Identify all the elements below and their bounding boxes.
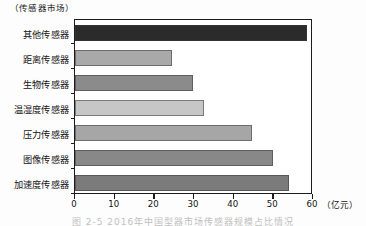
plot-area	[74, 19, 312, 194]
x-axis-tick-label-2: 20	[148, 199, 159, 209]
bar-4	[75, 100, 204, 116]
bar-2	[75, 50, 172, 66]
x-axis-tick-label-1: 10	[108, 199, 119, 209]
x-axis-tick-label-0: 0	[71, 199, 76, 209]
y-axis-label-1: 其他传感器	[0, 27, 69, 41]
y-axis-label-7: 加速度传感器	[0, 177, 69, 191]
y-axis-tick-6	[71, 168, 75, 169]
bar-row	[75, 125, 313, 141]
bar-6	[75, 150, 273, 166]
y-axis-tick-1	[71, 43, 75, 44]
bar-row	[75, 25, 313, 41]
y-axis-tick-5	[71, 143, 75, 144]
bar-3	[75, 75, 193, 91]
figure-caption: 图 2-5 2016年中国型器市场传感器规模占比情况	[0, 215, 366, 226]
y-axis-tick-4	[71, 118, 75, 119]
y-axis-label-3: 生物传感器	[0, 77, 69, 91]
bar-1	[75, 25, 307, 41]
figure-container: （传感器市场） 其他传感器距离传感器生物传感器温湿度传感器压力传感器图像传感器加…	[0, 0, 366, 226]
bar-row	[75, 150, 313, 166]
bar-row	[75, 175, 313, 191]
y-axis-label-6: 图像传感器	[0, 152, 69, 166]
y-axis-tick-3	[71, 93, 75, 94]
y-axis-label-5: 压力传感器	[0, 127, 69, 141]
x-axis-tick-label-6: 60	[307, 199, 318, 209]
y-axis-tick-2	[71, 68, 75, 69]
bar-row	[75, 100, 313, 116]
y-axis-label-group: 其他传感器距离传感器生物传感器温湿度传感器压力传感器图像传感器加速度传感器	[0, 0, 71, 226]
x-axis-tick-label-5: 50	[267, 199, 278, 209]
bar-row	[75, 50, 313, 66]
y-axis-label-2: 距离传感器	[0, 52, 69, 66]
bar-7	[75, 175, 289, 191]
bar-row	[75, 75, 313, 91]
y-axis-tick-7	[71, 193, 75, 194]
x-axis-tick-label-4: 40	[227, 199, 238, 209]
x-axis-tick-label-3: 30	[188, 199, 199, 209]
y-axis-label-4: 温湿度传感器	[0, 102, 69, 116]
bar-5	[75, 125, 252, 141]
x-axis-unit-label: （亿元）	[322, 198, 358, 210]
